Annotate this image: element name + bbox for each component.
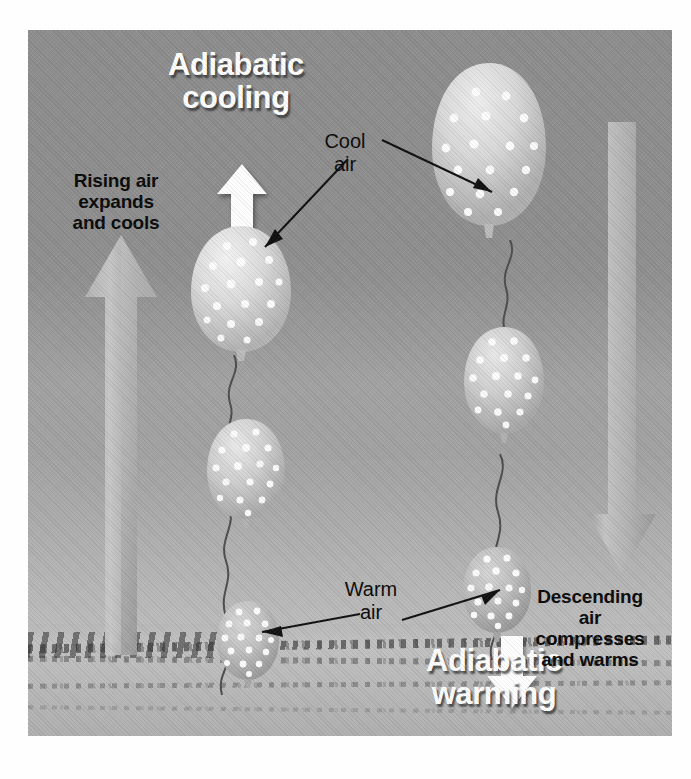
- label-cool-air: Cool air: [300, 130, 390, 176]
- descending-line-1: Descending: [508, 586, 672, 607]
- label-descending-air: Descending air compresses and warms: [508, 586, 672, 670]
- balloon-left-middle: [200, 416, 292, 534]
- label-rising-air: Rising air expands and cools: [34, 170, 198, 233]
- title-cooling-line-2: cooling: [116, 81, 356, 114]
- gray-rising-arrow: [83, 235, 159, 655]
- descending-line-3: compresses: [508, 628, 672, 649]
- title-cooling-line-1: Adiabatic: [116, 48, 356, 81]
- screenshot-root: Adiabatic cooling Adiabatic warming Risi…: [0, 0, 691, 779]
- title-adiabatic-cooling: Adiabatic cooling: [116, 48, 356, 114]
- cool-air-line-2: air: [300, 153, 390, 176]
- balloon-right-middle: [456, 324, 552, 450]
- label-warm-air: Warm air: [323, 578, 419, 624]
- adiabatic-diagram-figure: Adiabatic cooling Adiabatic warming Risi…: [28, 30, 672, 736]
- rising-line-3: and cools: [34, 212, 198, 233]
- descending-line-4: and warms: [508, 649, 672, 670]
- gray-descending-arrow: [586, 122, 658, 574]
- warm-air-line-1: Warm: [323, 578, 419, 601]
- title-warming-line-2: warming: [374, 677, 614, 710]
- rising-line-1: Rising air: [34, 170, 198, 191]
- cool-air-leader-right: [380, 136, 500, 206]
- rising-line-2: expands: [34, 191, 198, 212]
- cool-air-line-1: Cool: [300, 130, 390, 153]
- warm-air-line-2: air: [323, 601, 419, 624]
- descending-line-2: air: [508, 607, 672, 628]
